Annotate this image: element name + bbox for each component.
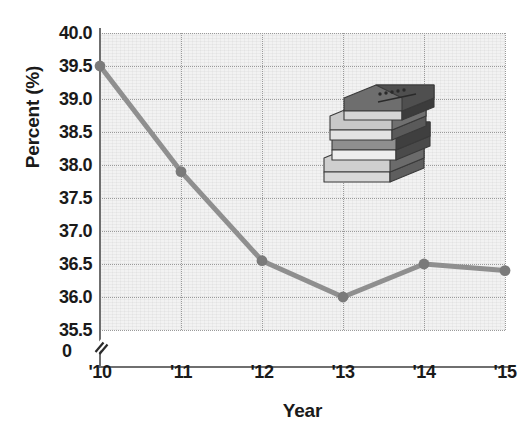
x-axis-tick-label: '12: [227, 363, 297, 381]
x-axis-tick-labels: '10'11'12'13'14'15: [0, 363, 530, 393]
x-axis-tick-label: '10: [65, 363, 135, 381]
data-point: [176, 166, 187, 177]
data-point: [500, 265, 511, 276]
data-point: [95, 61, 106, 72]
x-axis-tick-label: '14: [389, 363, 459, 381]
x-axis-tick-label: '15: [470, 363, 530, 381]
x-axis-title: Year: [100, 400, 505, 422]
data-point: [338, 292, 349, 303]
x-axis-tick-label: '13: [308, 363, 378, 381]
data-point: [257, 255, 268, 266]
series-line: [100, 66, 505, 297]
line-chart: Percent (%) 40.039.539.038.538.037.537.0…: [0, 0, 530, 433]
stack-of-books-illustration: [318, 82, 442, 188]
data-point: [419, 259, 430, 270]
x-axis-tick-label: '11: [146, 363, 216, 381]
